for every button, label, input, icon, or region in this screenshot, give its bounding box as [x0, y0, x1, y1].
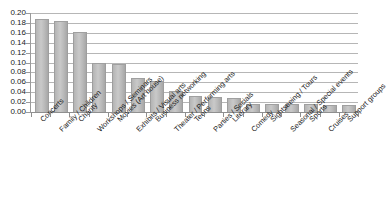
x-tick-mark — [281, 113, 282, 117]
y-tick-label: 0.06 — [10, 78, 26, 86]
x-tick-mark — [243, 113, 244, 117]
x-tick-mark — [262, 113, 263, 117]
x-tick-mark — [300, 113, 301, 117]
y-tick-mark — [26, 43, 31, 44]
x-tick-mark — [358, 113, 359, 117]
y-tick-mark — [26, 13, 31, 14]
y-tick-label: 0.10 — [10, 59, 26, 67]
x-tick-mark — [166, 113, 167, 117]
y-tick-mark — [26, 102, 31, 103]
y-tick-mark — [26, 33, 31, 34]
bars-group — [31, 13, 358, 112]
y-tick-label: 0.12 — [10, 49, 26, 57]
y-tick-mark — [26, 63, 31, 64]
y-tick-label: 0.14 — [10, 39, 26, 47]
x-tick-mark — [50, 113, 51, 117]
y-tick-label: 0.08 — [10, 68, 26, 76]
y-tick-label: 0.00 — [10, 108, 26, 116]
x-tick-mark — [108, 113, 109, 117]
y-tick-mark — [26, 72, 31, 73]
x-tick-mark — [146, 113, 147, 117]
x-tick-mark — [31, 113, 32, 117]
y-tick-label: 0.16 — [10, 29, 26, 37]
x-tick-mark — [320, 113, 321, 117]
x-tick-mark — [339, 113, 340, 117]
plot-area — [31, 13, 358, 112]
x-tick-mark — [69, 113, 70, 117]
x-tick-mark — [204, 113, 205, 117]
bar — [35, 19, 49, 112]
y-tick-mark — [26, 82, 31, 83]
y-tick-mark — [26, 92, 31, 93]
y-tick-label: 0.04 — [10, 88, 26, 96]
y-axis-labels: 0.000.020.040.060.080.100.120.140.160.18… — [0, 8, 28, 114]
y-tick-mark — [26, 53, 31, 54]
x-tick-mark — [89, 113, 90, 117]
y-tick-label: 0.02 — [10, 98, 26, 106]
y-tick-label: 0.20 — [10, 9, 26, 17]
x-tick-mark — [185, 113, 186, 117]
y-tick-mark — [26, 23, 31, 24]
x-tick-mark — [223, 113, 224, 117]
x-tick-mark — [127, 113, 128, 117]
y-tick-label: 0.18 — [10, 19, 26, 27]
